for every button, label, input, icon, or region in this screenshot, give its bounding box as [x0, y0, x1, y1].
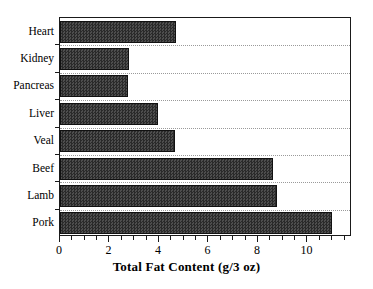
y-tick-label-pork: Pork — [32, 216, 54, 228]
x-axis-major-tick — [257, 236, 258, 242]
bar-veal — [60, 130, 350, 152]
x-axis-minor-tick — [220, 236, 221, 240]
y-axis-tick — [55, 99, 60, 100]
x-axis-minor-tick — [96, 236, 97, 240]
bar-kidney — [60, 48, 350, 70]
gridline — [60, 210, 350, 211]
x-axis-minor-tick — [170, 236, 171, 240]
bar-heart — [60, 21, 350, 43]
x-axis-title: Total Fat Content (g/3 oz) — [0, 259, 373, 275]
bar-lamb — [60, 185, 350, 207]
gridline — [60, 73, 350, 74]
bar-pork — [60, 212, 350, 234]
y-tick-label-pancreas: Pancreas — [13, 79, 54, 91]
x-axis-minor-tick — [344, 236, 345, 240]
y-axis-tick — [55, 209, 60, 210]
bar-fill — [60, 48, 129, 70]
x-axis-major-tick — [108, 236, 109, 242]
y-tick-label-veal: Veal — [34, 134, 54, 146]
gridline — [60, 45, 350, 46]
bar-fill — [60, 130, 175, 152]
bar-chart-figure: HeartKidneyPancreasLiverVealBeefLambPork… — [0, 0, 373, 289]
x-axis-minor-tick — [319, 236, 320, 240]
x-axis-minor-tick — [71, 236, 72, 240]
bar-pancreas — [60, 75, 350, 97]
plot-area — [59, 17, 351, 236]
x-tick-label-6: 6 — [187, 244, 227, 256]
x-axis-minor-tick — [269, 236, 270, 240]
x-axis-major-tick — [207, 236, 208, 242]
y-axis-tick — [55, 127, 60, 128]
y-axis-tick — [55, 72, 60, 73]
y-tick-label-liver: Liver — [29, 107, 54, 119]
y-axis-tick — [55, 181, 60, 182]
y-tick-label-kidney: Kidney — [20, 52, 54, 64]
x-axis-minor-tick — [331, 236, 332, 240]
x-axis-minor-tick — [232, 236, 233, 240]
bar-beef — [60, 158, 350, 180]
y-axis-tick — [55, 154, 60, 155]
bar-fill — [60, 21, 176, 43]
x-axis-minor-tick — [195, 236, 196, 240]
x-axis-major-tick — [158, 236, 159, 242]
x-axis-minor-tick — [183, 236, 184, 240]
x-tick-label-10: 10 — [286, 244, 326, 256]
x-tick-label-4: 4 — [138, 244, 178, 256]
x-axis-minor-tick — [245, 236, 246, 240]
y-tick-label-beef: Beef — [32, 162, 54, 174]
x-axis-minor-tick — [146, 236, 147, 240]
gridline — [60, 100, 350, 101]
bar-fill — [60, 185, 277, 207]
x-axis-minor-tick — [121, 236, 122, 240]
y-axis-tick — [55, 44, 60, 45]
gridline — [60, 182, 350, 183]
bar-fill — [60, 103, 158, 125]
x-tick-label-8: 8 — [237, 244, 277, 256]
bar-liver — [60, 103, 350, 125]
y-tick-label-lamb: Lamb — [27, 189, 54, 201]
bar-fill — [60, 75, 128, 97]
gridline — [60, 155, 350, 156]
x-axis-major-tick — [306, 236, 307, 242]
bar-fill — [60, 158, 273, 180]
x-tick-label-2: 2 — [88, 244, 128, 256]
x-axis-minor-tick — [133, 236, 134, 240]
gridline — [60, 128, 350, 129]
x-axis-minor-tick — [294, 236, 295, 240]
x-axis-minor-tick — [282, 236, 283, 240]
y-tick-label-heart: Heart — [28, 25, 54, 37]
x-axis-minor-tick — [84, 236, 85, 240]
bar-fill — [60, 212, 332, 234]
x-axis-major-tick — [59, 236, 60, 242]
x-tick-label-0: 0 — [39, 244, 79, 256]
